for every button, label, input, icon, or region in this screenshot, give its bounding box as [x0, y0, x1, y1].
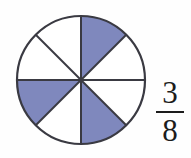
fraction-label: 3 8 — [150, 72, 190, 152]
fraction-pie-figure: 3 8 — [0, 0, 191, 158]
pie-chart-svg — [0, 0, 163, 158]
fraction-denominator: 8 — [162, 116, 178, 146]
pie-chart — [0, 0, 163, 158]
fraction-numerator: 3 — [162, 78, 178, 108]
